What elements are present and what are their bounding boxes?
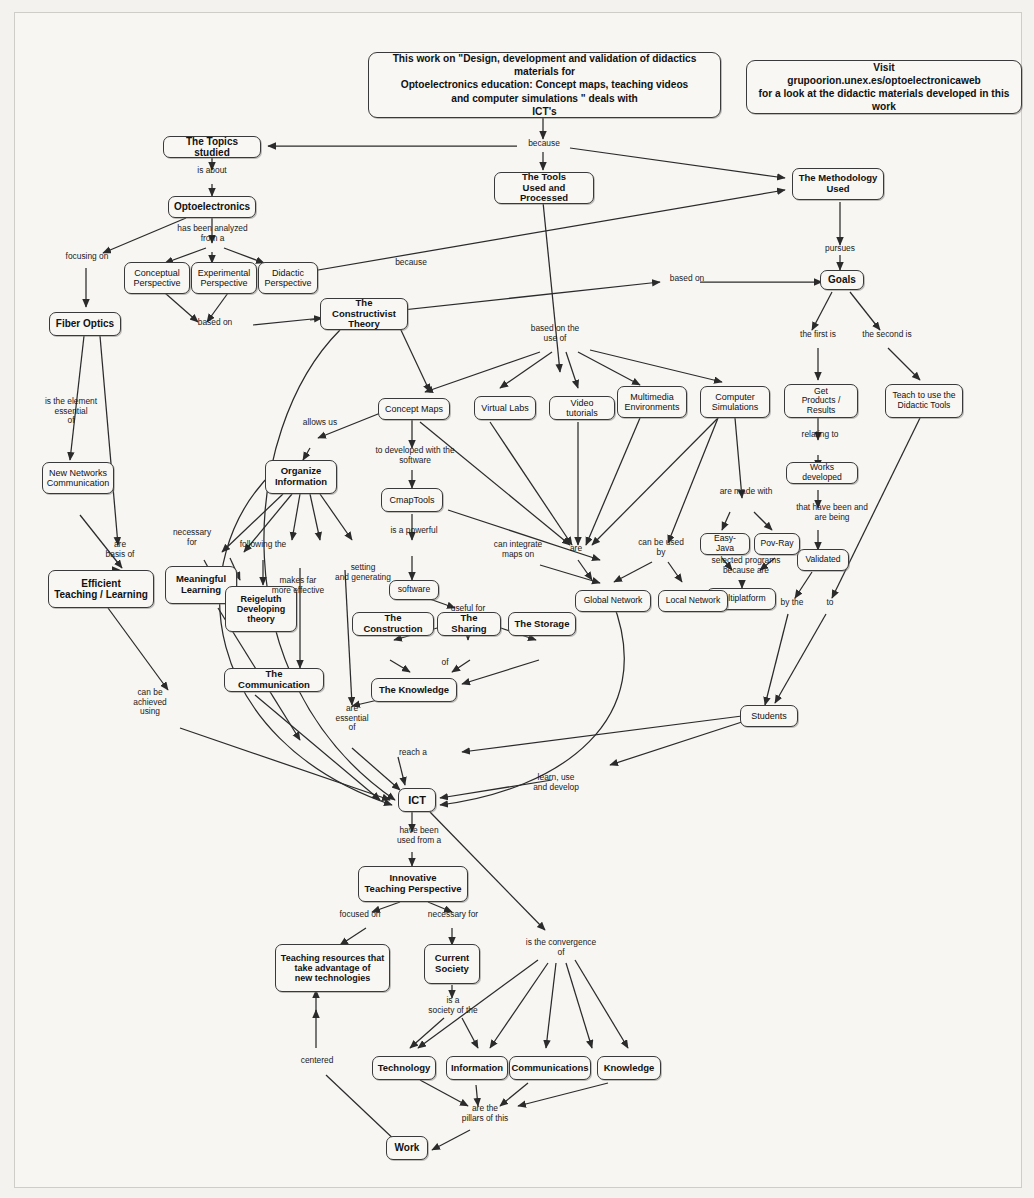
node-the-topics-studied[interactable]: The Topics studied <box>163 136 261 158</box>
node-validated[interactable]: Validated <box>797 549 849 571</box>
link-label-relating-to: relating to <box>790 430 850 440</box>
link-label-can-be-achieved-using: can be achieved using <box>114 688 186 717</box>
node-efficient-teaching-learning[interactable]: Efficient Teaching / Learning <box>48 570 154 608</box>
node-pov-ray[interactable]: Pov-Ray <box>754 533 800 555</box>
link-label-necessary-for-2: necessary for <box>414 910 492 920</box>
node-experimental-perspective[interactable]: Experimental Perspective <box>191 262 257 294</box>
visit-banner[interactable]: Visit grupoorion.unex.es/optoelectronica… <box>746 60 1022 114</box>
link-label-is-the-convergence-of: is the convergence of <box>506 938 616 957</box>
node-students[interactable]: Students <box>740 705 798 727</box>
link-label-the-second-is: the second is <box>852 330 922 340</box>
node-ict[interactable]: ICT <box>398 788 436 812</box>
banner-line: Optoelectronics education: Concept maps,… <box>401 78 689 91</box>
link-label-focused-on: focused on <box>327 910 393 920</box>
banner-line: ICT's <box>532 105 557 118</box>
link-label-based-on-2: based on <box>661 274 713 284</box>
node-fiber-optics[interactable]: Fiber Optics <box>49 312 121 336</box>
link-label-necessary-for: necessary for <box>160 528 224 547</box>
link-label-because-top: because <box>518 139 570 149</box>
link-label-to: to <box>820 598 840 608</box>
link-label-pursues: pursues <box>812 244 868 254</box>
node-local-network[interactable]: Local Network <box>658 590 728 612</box>
link-label-based-on-1: based on <box>189 318 241 328</box>
link-label-reach-a: reach a <box>387 748 439 758</box>
node-cmaptools[interactable]: CmapTools <box>381 488 443 512</box>
link-label-have-been-used-from-a: have been used from a <box>383 826 455 845</box>
link-label-selected-programs-because-are: selected programs because are <box>700 556 792 575</box>
link-label-based-on-the-use-of: based on the use of <box>512 324 598 343</box>
link-label-are-essential-of: are essential of <box>325 704 379 733</box>
link-label-are: are <box>561 544 591 554</box>
node-computer-simulations[interactable]: Computer Simulations <box>700 386 770 418</box>
work-statement-banner: This work on "Design, development and va… <box>368 52 721 118</box>
node-conceptual-perspective[interactable]: Conceptual Perspective <box>124 262 190 294</box>
node-organize-information[interactable]: Organize Information <box>265 460 337 494</box>
node-information[interactable]: Information <box>446 1056 508 1080</box>
link-label-following-the: following the <box>228 540 298 550</box>
link-label-the-first-is: the first is <box>790 330 846 340</box>
link-label-can-integrate-maps-on: can integrate maps on <box>478 540 558 559</box>
node-current-society[interactable]: Current Society <box>424 944 480 984</box>
link-label-centered: centered <box>288 1056 346 1066</box>
node-work[interactable]: Work <box>386 1136 428 1160</box>
node-video-tutorials[interactable]: Video tutorials <box>549 396 615 420</box>
node-optoelectronics[interactable]: Optoelectronics <box>168 196 256 218</box>
node-communications[interactable]: Communications <box>509 1056 591 1080</box>
link-label-allows-us: allows us <box>292 418 348 428</box>
node-new-networks-communication[interactable]: New Networks Communication <box>42 462 114 494</box>
link-label-can-be-used-by: can be used by <box>626 538 696 557</box>
node-the-methodology-used[interactable]: The Methodology Used <box>792 168 884 200</box>
node-teaching-resources[interactable]: Teaching resources that take advantage o… <box>275 944 390 992</box>
visit-url[interactable]: grupoorion.unex.es/optoelectronicaweb <box>787 74 981 87</box>
node-get-products-results[interactable]: Get Products / Results <box>784 384 858 418</box>
link-label-are-basis-of: are basis of <box>91 540 149 559</box>
node-multimedia-environments[interactable]: Multimedia Environments <box>617 386 687 418</box>
node-virtual-labs[interactable]: Virtual Labs <box>474 396 536 420</box>
node-the-sharing[interactable]: The Sharing <box>437 612 501 636</box>
link-label-that-have-been-and-are-being: that have been and are being <box>782 503 882 522</box>
node-the-storage[interactable]: The Storage <box>508 612 576 636</box>
banner-line: This work on "Design, development and va… <box>377 52 712 78</box>
node-easy-java[interactable]: Easy-Java <box>700 533 750 555</box>
link-label-learn-use-and-develop: learn, use and develop <box>516 773 596 792</box>
node-knowledge[interactable]: Knowledge <box>597 1056 661 1080</box>
link-label-is-a-society-of-the: is a society of the <box>414 996 492 1015</box>
link-label-are-made-with: are made with <box>708 487 784 497</box>
link-label-by-the: by the <box>770 598 814 608</box>
node-concept-maps[interactable]: Concept Maps <box>378 398 450 420</box>
node-global-network[interactable]: Global Network <box>575 590 651 612</box>
node-the-knowledge[interactable]: The Knowledge <box>371 678 457 702</box>
link-label-is-about: is about <box>186 166 238 176</box>
node-works-developed[interactable]: Works developed <box>786 462 858 484</box>
link-label-is-the-element-essential-of: is the element essential of <box>32 397 110 426</box>
node-the-communication[interactable]: The Communication <box>224 668 324 692</box>
banner-line: for a look at the didactic materials dev… <box>755 87 1013 113</box>
node-the-tools-used-and-processed[interactable]: The Tools Used and Processed <box>494 172 594 204</box>
node-the-constructivist-theory[interactable]: The Constructivist Theory <box>320 298 408 330</box>
node-didactic-perspective[interactable]: Didactic Perspective <box>258 262 318 294</box>
node-innovative-teaching-perspective[interactable]: Innovative Teaching Perspective <box>358 866 468 902</box>
node-goals[interactable]: Goals <box>820 270 864 290</box>
banner-line: Visit <box>873 61 894 74</box>
link-label-focusing-on: focusing on <box>56 252 118 262</box>
node-the-construction[interactable]: The Construction <box>352 612 434 636</box>
link-label-because-2: because <box>385 258 437 268</box>
link-label-to-developed-with-the-software: to developed with the software <box>356 446 474 465</box>
node-software[interactable]: software <box>389 580 439 600</box>
link-label-of: of <box>433 658 457 668</box>
banner-line: and computer simulations " deals with <box>451 92 638 105</box>
link-label-is-a-powerful: is a powerful <box>381 526 447 536</box>
node-technology[interactable]: Technology <box>372 1056 436 1080</box>
link-label-setting-and-generating: setting and generating <box>324 563 402 582</box>
link-label-are-the-pillars-of-this: are the pillars of this <box>444 1104 526 1123</box>
link-label-useful-for: useful for <box>440 604 496 614</box>
node-teach-to-use-didactic-tools[interactable]: Teach to use the Didactic Tools <box>885 384 963 418</box>
concept-map-canvas: This work on "Design, development and va… <box>0 0 1034 1198</box>
link-label-has-been-analyzed: has been analyzed from a <box>160 224 265 243</box>
